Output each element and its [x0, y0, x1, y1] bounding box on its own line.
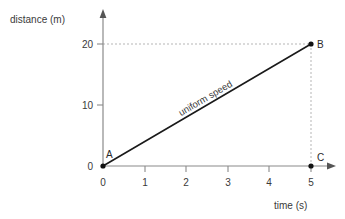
chart-canvas: distance (m) 20 10 0 0 1 2 3 4 5	[0, 0, 345, 219]
y-tick-label-20: 20	[82, 39, 94, 50]
series-inline-label: uniform speed	[176, 78, 233, 118]
data-point-c	[308, 163, 313, 168]
x-tick-label-0: 0	[100, 177, 106, 188]
x-tick-label-2: 2	[183, 177, 189, 188]
y-tick-label-0: 0	[87, 161, 93, 172]
x-tick-label-3: 3	[225, 177, 231, 188]
y-axis-title: distance (m)	[10, 14, 65, 25]
point-label-a: A	[106, 149, 113, 160]
y-tick-label-10: 10	[82, 100, 94, 111]
x-tick-label-1: 1	[142, 177, 148, 188]
x-axis-arrow-icon	[327, 163, 336, 170]
point-label-b: B	[317, 39, 324, 50]
point-label-c: C	[317, 152, 324, 163]
data-point-b	[308, 41, 313, 46]
distance-time-chart: distance (m) 20 10 0 0 1 2 3 4 5	[0, 0, 345, 219]
data-point-a	[100, 163, 105, 168]
x-tick-label-5: 5	[308, 177, 314, 188]
y-axis-arrow-icon	[100, 9, 107, 18]
x-tick-label-4: 4	[266, 177, 272, 188]
series-line-uniform-speed	[103, 44, 311, 166]
x-axis-title: time (s)	[274, 200, 307, 211]
